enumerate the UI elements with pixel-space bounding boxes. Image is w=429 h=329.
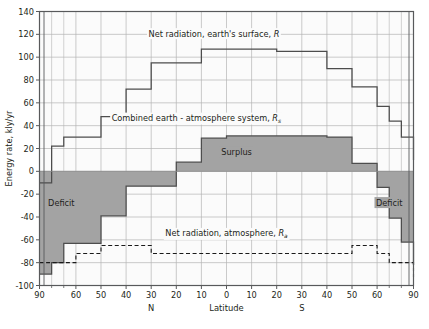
y-axis: 140120100806040200-20-40-60-80-100 bbox=[15, 7, 39, 291]
x-axis-title: Latitude bbox=[209, 303, 243, 313]
x-tick-label: 60 bbox=[71, 290, 81, 300]
x-tick-label: 60 bbox=[372, 290, 382, 300]
y-tick-label: 60 bbox=[24, 98, 34, 108]
y-tick-label: 140 bbox=[18, 7, 34, 17]
x-tick-label: 90 bbox=[408, 290, 418, 300]
x-tick-label: 40 bbox=[322, 290, 332, 300]
x-tick-label: 30 bbox=[297, 290, 307, 300]
y-tick-label: 120 bbox=[18, 29, 34, 39]
x-tick-label: 20 bbox=[271, 290, 281, 300]
x-tick-label: 10 bbox=[196, 290, 206, 300]
x-tick-label: 0 bbox=[224, 290, 229, 300]
y-tick-label: -20 bbox=[21, 189, 34, 199]
y-tick-label: 80 bbox=[24, 75, 34, 85]
hemisphere-label-south: S bbox=[299, 303, 304, 313]
y-tick-label: -60 bbox=[21, 235, 34, 245]
x-tick-label: 90 bbox=[34, 290, 44, 300]
chart-canvas: 140120100806040200-20-40-60-80-100Energy… bbox=[0, 0, 429, 329]
x-tick-label: 50 bbox=[347, 290, 357, 300]
annot-surplus: Surplus bbox=[221, 147, 252, 157]
annot-deficit-n: Deficit bbox=[48, 198, 75, 208]
y-axis-title: Energy rate, kly/yr bbox=[4, 110, 14, 187]
y-tick-label: 20 bbox=[24, 144, 34, 154]
x-tick-label: 40 bbox=[121, 290, 131, 300]
y-tick-label: 100 bbox=[18, 52, 34, 62]
x-tick-label: 10 bbox=[246, 290, 256, 300]
x-tick-label: 50 bbox=[96, 290, 106, 300]
y-tick-label: -80 bbox=[21, 258, 34, 268]
chart-figure: 140120100806040200-20-40-60-80-100Energy… bbox=[0, 0, 429, 329]
x-tick-label: 20 bbox=[171, 290, 181, 300]
x-axis: 90605040302010010203040506090NSLatitude bbox=[34, 286, 418, 313]
annot-surface: Net radiation, earth's surface, R bbox=[149, 29, 280, 39]
surplus-deficit-shading bbox=[176, 136, 377, 171]
y-tick-label: -100 bbox=[15, 281, 34, 291]
annot-combined: Combined earth - atmosphere system, Rs bbox=[112, 113, 281, 124]
y-tick-label: -40 bbox=[21, 212, 34, 222]
annot-deficit-s: Deficit bbox=[376, 198, 403, 208]
hemisphere-label-north: N bbox=[148, 303, 154, 313]
annot-atmos: Net radiation, atmosphere, Ra bbox=[165, 228, 288, 239]
y-tick-label: 0 bbox=[29, 166, 34, 176]
x-tick-label: 30 bbox=[146, 290, 156, 300]
y-tick-label: 40 bbox=[24, 121, 34, 131]
